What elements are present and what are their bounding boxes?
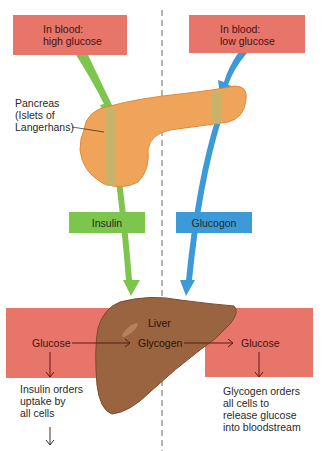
glucose-out-label: Glucose — [241, 337, 280, 349]
glucagon-outcome-line2: all cells to — [223, 397, 301, 409]
glucagon-outcome-line4: into bloodstream — [223, 421, 301, 433]
pancreas-label-line2: (Islets of — [15, 109, 74, 121]
liver-label: Liver — [148, 317, 171, 329]
glucose-in-label: Glucose — [32, 337, 71, 349]
pancreas-label-line1: Pancreas — [15, 97, 74, 109]
insulin-outcome-line2: uptake by — [20, 395, 83, 407]
pancreas-islet-band-right — [212, 92, 221, 124]
insulin-label: Insulin — [92, 217, 122, 229]
pancreas-label-line3: Langerhans) — [15, 121, 74, 133]
liver-shape — [96, 297, 237, 414]
glycogen-label: Glycogen — [138, 337, 182, 349]
insulin-box: Insulin — [69, 212, 145, 233]
insulin-outcome-text: Insulin orders uptake by all cells — [20, 383, 83, 419]
insulin-outcome-line1: Insulin orders — [20, 383, 83, 395]
glucagon-box: Glucogon — [176, 212, 252, 233]
pancreas-islet-band-left — [106, 108, 115, 186]
pancreas-label: Pancreas (Islets of Langerhans) — [15, 97, 74, 133]
glucagon-outcome-line3: release glucose — [223, 409, 301, 421]
insulin-outcome-arrow — [46, 427, 54, 445]
insulin-outcome-line3: all cells — [20, 407, 83, 419]
glucagon-label: Glucogon — [192, 217, 237, 229]
glucagon-outcome-text: Glycogen orders all cells to release glu… — [223, 385, 301, 433]
glucagon-outcome-line1: Glycogen orders — [223, 385, 301, 397]
